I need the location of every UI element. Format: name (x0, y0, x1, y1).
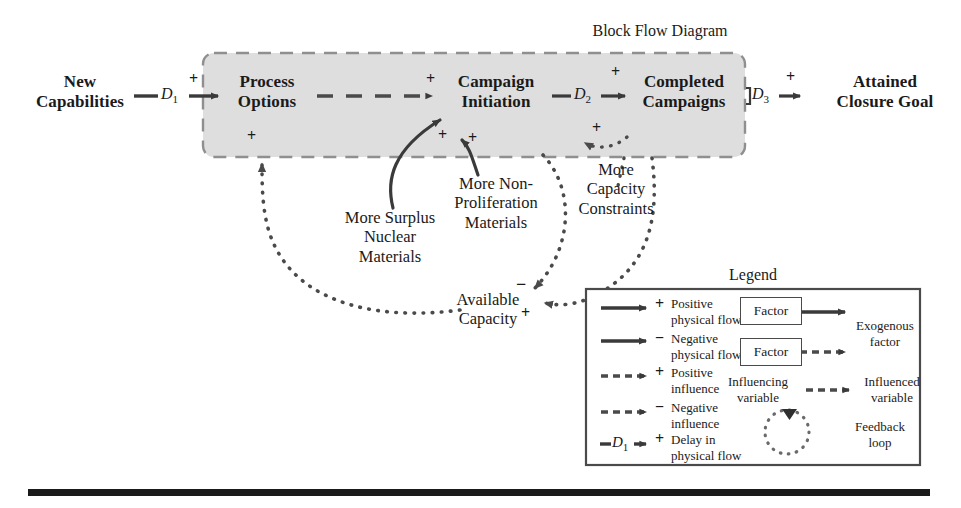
legend-factor-box-solid: Factor (740, 297, 802, 325)
sign-process-options-in: + (189, 71, 198, 87)
legend-sign-delay-in-physical-flow: + (655, 431, 664, 447)
bottom-rule (28, 489, 930, 496)
legend-factor-box-dashed: Factor (740, 338, 802, 366)
legend-label-influenced-variable: Influenced variable (850, 374, 934, 405)
delay-d1-letter: D (161, 85, 173, 102)
node-campaign-initiation: Campaign Initiation (436, 72, 556, 112)
node-attained-closure-goal: Attained Closure Goal (812, 72, 958, 112)
delay-d3-letter: D (752, 85, 764, 102)
delay-d3-sub: 3 (764, 93, 770, 105)
sign-available-capacity-negative: − (516, 275, 526, 293)
legend-sign-negative-physical-flow: − (655, 330, 664, 346)
legend-label-influencing-variable: Influencing variable (712, 374, 804, 405)
factor-more-surplus-nuclear-materials: More Surplus Nuclear Materials (330, 208, 450, 266)
sign-available-capacity-positive: + (521, 305, 530, 321)
delay-d1-sub: 1 (173, 93, 179, 105)
legend-delay-sub: 1 (623, 441, 629, 453)
legend-label-delay-in-physical-flow: Delay in physical flow (671, 432, 783, 463)
block-flow-diagram-figure: Block Flow Diagram New Capabilities Proc… (0, 0, 961, 508)
sign-completed-campaigns-bottom: + (592, 120, 601, 136)
sign-campaign-initiation-bottom-right: + (468, 130, 477, 146)
node-new-capabilities: New Capabilities (18, 72, 142, 112)
factor-more-non-proliferation-materials: More Non- Proliferation Materials (435, 174, 557, 232)
delay-d2-sub: 2 (586, 93, 592, 105)
delay-d2-letter: D (574, 85, 586, 102)
legend-sign-positive-influence: + (655, 364, 664, 380)
legend-label-exogenous-factor: Exogenous factor (845, 318, 925, 349)
node-process-options: Process Options (212, 72, 322, 112)
sign-attained-closure-goal-in: + (786, 69, 795, 85)
legend-delay-letter: D (612, 434, 623, 450)
diagram-title: Block Flow Diagram (565, 22, 755, 41)
sign-process-options-bottom: + (247, 128, 256, 144)
delay-label-d1: D1 (161, 85, 178, 105)
node-completed-campaigns: Completed Campaigns (620, 72, 748, 112)
delay-label-d3: D3 (752, 85, 769, 105)
delay-label-d2: D2 (574, 85, 591, 105)
legend-title: Legend (688, 266, 818, 285)
legend-sign-negative-influence: − (655, 399, 664, 415)
sign-completed-campaigns-top: + (611, 64, 620, 80)
sign-campaign-initiation-bottom-left: + (438, 127, 447, 143)
sign-campaign-initiation-in: + (426, 71, 435, 87)
legend-delay-label-d1: D1 (612, 434, 628, 453)
factor-more-capacity-constraints: More Capacity Constraints (566, 160, 666, 218)
legend-sign-positive-physical-flow: + (655, 296, 664, 312)
legend-label-feedback-loop: Feedback loop (840, 419, 920, 450)
